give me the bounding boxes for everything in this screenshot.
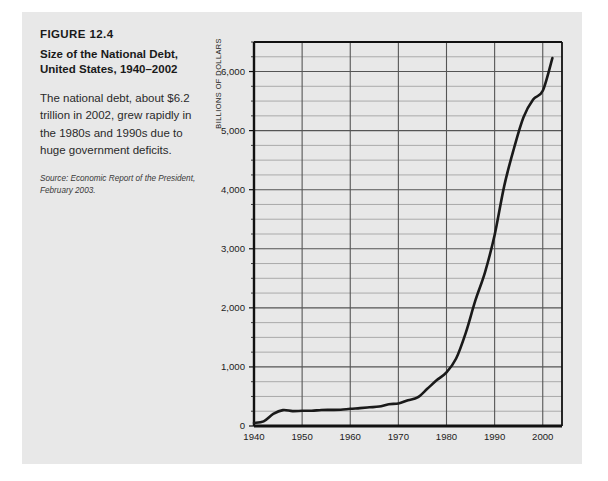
y-axis-tick-labels: 01,0002,0003,0004,0005,0006,000 [221,66,245,431]
x-axis-tick-labels: 1940195019601970198019902000 [243,431,553,442]
x-tick-label: 1960 [340,431,361,442]
x-tick-label: 1990 [484,431,505,442]
caption-column: FIGURE 12.4 Size of the National Debt,Un… [40,28,198,197]
y-tick-label: 2,000 [221,302,245,313]
chart-block: BILLIONS OF DOLLARS 01,0002,0003,0004,00… [208,20,568,460]
x-tick-label: 1970 [388,431,409,442]
figure-source-note: Source: Economic Report of the President… [40,173,198,196]
x-tick-label: 1940 [243,431,264,442]
y-tick-label: 0 [240,420,245,431]
figure-panel: FIGURE 12.4 Size of the National Debt,Un… [22,12,582,464]
x-tick-label: 1950 [291,431,312,442]
chart-svg: 01,0002,0003,0004,0005,0006,000 19401950… [208,20,568,460]
y-tick-label: 5,000 [221,125,245,136]
y-tick-label: 3,000 [221,243,245,254]
y-tick-label: 4,000 [221,184,245,195]
x-tick-label: 2000 [532,431,553,442]
x-tick-label: 1980 [436,431,457,442]
line-chart: 01,0002,0003,0004,0005,0006,000 19401950… [208,20,568,460]
y-tick-label: 1,000 [221,361,245,372]
figure-title: Size of the National Debt,United States,… [40,47,198,78]
y-tick-label: 6,000 [221,66,245,77]
figure-number: FIGURE 12.4 [40,28,198,40]
figure-description: The national debt, about $6.2 trillion i… [40,90,198,160]
